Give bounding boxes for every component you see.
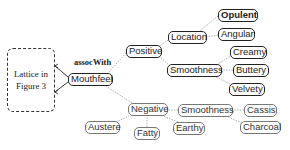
node-opulent: Opulent [218, 9, 258, 22]
node-austere: Austere [85, 121, 120, 134]
mouthfeel-lattice-diagram: Lattice in Figure 3 assocWith Mouthfeel … [0, 0, 290, 150]
assoc-with-edge-label: assocWith [74, 57, 111, 67]
node-smoothness-negative: Smoothness [178, 104, 233, 117]
node-positive: Positive [126, 45, 162, 58]
node-negative: Negative [128, 103, 168, 116]
node-mouthfeel: Mouthfeel [68, 73, 113, 86]
lattice-label-line1: Lattice in [14, 68, 48, 80]
node-fatty: Fatty [134, 127, 160, 140]
node-earthy: Earthy [173, 122, 205, 135]
node-location: Location [168, 31, 207, 44]
node-smoothness-positive: Smoothness [167, 64, 222, 77]
lattice-label-line2: Figure 3 [16, 80, 46, 92]
node-cassis: Cassis [244, 104, 277, 117]
node-angular: Angular [218, 28, 255, 41]
node-creamy: Creamy [230, 46, 267, 59]
lattice-figure-3-box: Lattice in Figure 3 [7, 48, 55, 112]
node-buttery: Buttery [233, 64, 269, 77]
node-velvety: Velvety [229, 83, 265, 96]
node-charcoal: Charcoal [240, 121, 281, 134]
